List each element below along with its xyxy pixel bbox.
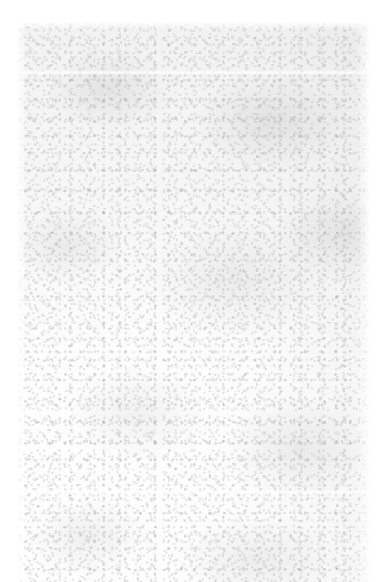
- scan-seam-line-upper: [17, 70, 370, 75]
- blank-page-note: Blank scanned page — no legible text con…: [0, 0, 1, 1]
- scan-density-gradient-right: [17, 22, 370, 582]
- scan-seam-line-lower: [17, 490, 370, 495]
- scan-speckle-texture-coarse: [17, 22, 370, 582]
- scan-speckle-texture-fine: [17, 22, 370, 582]
- scan-blotch-shading: [17, 22, 370, 582]
- scan-edge-fade: [17, 22, 370, 582]
- scan-density-gradient-top: [17, 22, 370, 582]
- scan-content-area: [17, 22, 370, 582]
- scanned-document-page: Blank scanned page — no legible text con…: [0, 0, 389, 582]
